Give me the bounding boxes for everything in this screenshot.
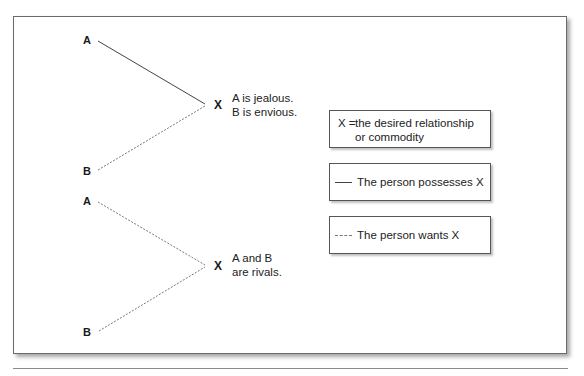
top-node-a: A	[83, 34, 91, 46]
bottom-vertex-x: X	[214, 260, 222, 273]
top-a-possesses-line	[98, 41, 205, 104]
legend-definition-line-1: the desired relationship	[355, 117, 474, 129]
legend-solid-label: The person possesses X	[357, 176, 484, 188]
solid-line-swatch-icon	[335, 182, 352, 183]
bottom-node-b: B	[83, 326, 91, 338]
legend-definition-line-2: or commodity	[355, 131, 424, 143]
dashed-line-swatch-icon	[335, 235, 352, 236]
connector-lines	[0, 0, 584, 376]
top-description-line-2: B is envious.	[232, 105, 297, 119]
legend-dashed-box: The person wants X	[329, 216, 491, 254]
legend-definition-box: X = the desired relationship or commodit…	[329, 110, 491, 148]
bottom-b-wants-line	[99, 267, 205, 331]
top-b-wants-line	[98, 106, 205, 170]
top-node-b: B	[83, 165, 91, 177]
bottom-description-line-2: are rivals.	[232, 265, 282, 279]
legend-definition-key: X =	[338, 117, 356, 129]
bottom-separator-rule	[13, 368, 568, 369]
bottom-description-line-1: A and B	[232, 251, 272, 265]
legend-dashed-label: The person wants X	[357, 229, 459, 241]
top-description-line-1: A is jealous.	[232, 91, 293, 105]
bottom-a-wants-line	[98, 202, 205, 265]
legend-solid-box: The person possesses X	[329, 163, 491, 201]
top-vertex-x: X	[214, 99, 222, 112]
bottom-node-a: A	[83, 195, 91, 207]
